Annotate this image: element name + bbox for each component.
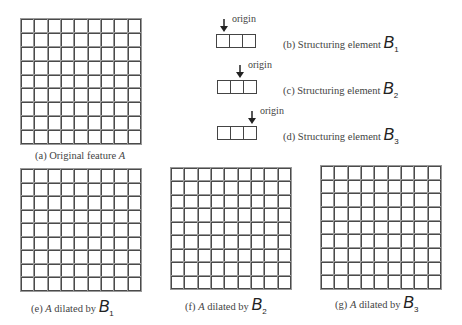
grid-cell	[264, 222, 277, 235]
grid-cell	[101, 223, 114, 237]
grid-cell	[388, 234, 401, 248]
grid-cell	[428, 275, 441, 289]
grid-cell	[101, 210, 114, 224]
grid-cell	[34, 223, 47, 237]
grid-cell	[211, 249, 224, 262]
symbol-b2: B	[383, 80, 394, 97]
grid-cell	[238, 262, 251, 275]
grid-cell	[114, 19, 127, 33]
grid-cell	[184, 195, 197, 208]
grid-cell	[224, 195, 237, 208]
grid-cell	[374, 207, 387, 221]
grid-cell	[334, 234, 347, 248]
grid-cell	[21, 19, 34, 33]
grid-cell	[101, 116, 114, 130]
grid-cell	[184, 222, 197, 235]
grid-cell	[128, 33, 141, 47]
grid-cell	[238, 249, 251, 262]
grid-cell	[388, 248, 401, 262]
grid-cell	[198, 262, 211, 275]
grid-cell	[238, 222, 251, 235]
grid-cell	[321, 166, 334, 180]
grid-cell	[48, 33, 61, 47]
symbol-b3: B	[384, 126, 395, 143]
grid-cell	[388, 262, 401, 276]
grid-cell	[401, 221, 414, 235]
grid-original-feature-a	[20, 18, 142, 145]
grid-cell	[101, 33, 114, 47]
grid-dilated-b3	[320, 165, 442, 290]
grid-cell	[224, 235, 237, 248]
grid-cell	[414, 221, 427, 235]
grid-cell	[34, 250, 47, 264]
grid-cell	[61, 183, 74, 197]
grid-cell	[21, 33, 34, 47]
grid-cell	[21, 237, 34, 251]
se-cell	[231, 80, 244, 94]
grid-cell	[128, 116, 141, 130]
grid-cell	[48, 61, 61, 75]
grid-cell	[348, 262, 361, 276]
grid-cell	[21, 264, 34, 278]
grid-cell	[414, 207, 427, 221]
grid-cell	[34, 116, 47, 130]
grid-cell	[74, 130, 87, 144]
grid-cell	[114, 47, 127, 61]
grid-cell	[21, 183, 34, 197]
grid-cell	[88, 102, 101, 116]
grid-cell	[128, 47, 141, 61]
grid-cell	[211, 262, 224, 275]
grid-cell	[101, 19, 114, 33]
grid-cell	[374, 275, 387, 289]
caption-a: (a) Original feature A	[35, 150, 125, 161]
grid-dilated-b1	[20, 168, 142, 292]
grid-cell	[48, 196, 61, 210]
grid-cell	[198, 249, 211, 262]
grid-cell	[34, 169, 47, 183]
grid-cell	[211, 235, 224, 248]
grid-cell	[88, 19, 101, 33]
grid-cell	[361, 180, 374, 194]
caption-a-text: (a) Original feature	[35, 150, 119, 161]
grid-cell	[128, 88, 141, 102]
grid-cell	[114, 264, 127, 278]
se-cell	[244, 126, 257, 140]
grid-cell	[224, 208, 237, 221]
grid-cell	[34, 130, 47, 144]
grid-cell	[388, 193, 401, 207]
grid-cell	[348, 248, 361, 262]
grid-cell	[21, 250, 34, 264]
caption-b: (b) Structuring element B1	[283, 34, 399, 52]
grid-cell	[224, 276, 237, 289]
grid-cell	[251, 235, 264, 248]
grid-cell	[88, 250, 101, 264]
grid-cell	[101, 237, 114, 251]
grid-cell	[101, 75, 114, 89]
caption-f-text: dilated by	[205, 301, 252, 312]
grid-cell	[198, 195, 211, 208]
grid-cell	[361, 262, 374, 276]
grid-cell	[74, 277, 87, 291]
grid-cell	[251, 208, 264, 221]
grid-cell	[48, 183, 61, 197]
caption-g-text: dilated by	[356, 299, 403, 310]
origin-label-b2: origin	[248, 59, 272, 70]
grid-cell	[34, 264, 47, 278]
grid-cell	[321, 207, 334, 221]
grid-cell	[278, 249, 291, 262]
grid-cell	[278, 222, 291, 235]
grid-cell	[114, 237, 127, 251]
grid-cell	[184, 249, 197, 262]
grid-cell	[198, 181, 211, 194]
grid-cell	[238, 195, 251, 208]
grid-cell	[74, 116, 87, 130]
grid-cell	[198, 168, 211, 181]
grid-cell	[48, 47, 61, 61]
grid-cell	[348, 207, 361, 221]
caption-e-text: dilated by	[52, 303, 99, 314]
grid-cell	[21, 61, 34, 75]
symbol-b2: B	[252, 296, 263, 313]
grid-cell	[428, 262, 441, 276]
grid-cell	[198, 276, 211, 289]
grid-cell	[348, 234, 361, 248]
